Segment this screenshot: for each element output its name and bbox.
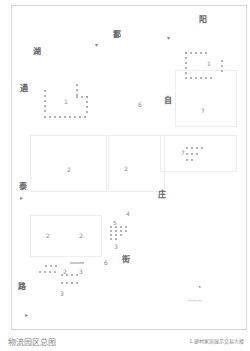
block-outline — [108, 135, 165, 192]
zone-number: 3 — [60, 290, 64, 297]
building-dots — [186, 147, 203, 149]
building-dots — [61, 282, 78, 284]
legend-note: 1.建材家居展示交易大楼 — [189, 337, 244, 344]
street-label-north-1: 鄱 — [113, 30, 121, 39]
building-dots — [76, 84, 78, 96]
block-outline — [160, 135, 237, 172]
street-label-west-4: 路 — [18, 282, 26, 291]
building-dots — [110, 230, 127, 232]
street-label-west-2: 通 — [20, 84, 28, 93]
street-label-west-3: 泰 — [19, 182, 27, 191]
street-label-west-1: 湖 — [33, 47, 41, 56]
zone-number: 1 — [207, 60, 211, 67]
zone-number: 7 — [181, 149, 185, 156]
marker-icon: ▸ — [25, 311, 28, 318]
zone-number: 1 — [64, 98, 68, 105]
marker-icon: ▾ — [167, 34, 170, 41]
building-dots — [186, 159, 193, 161]
street-label-south-1: 街 — [122, 255, 130, 264]
marker-icon: ▾ — [95, 41, 98, 48]
zone-number: 5 — [113, 219, 117, 226]
street-label-north-2: 阳 — [199, 15, 207, 24]
zone-number: 7 — [201, 107, 205, 114]
zone-number: 4 — [126, 210, 130, 217]
zone-number: 2 — [67, 166, 71, 173]
building-dots — [44, 90, 46, 112]
building-dots — [44, 116, 86, 118]
marker-icon: • — [198, 283, 202, 290]
block-outline — [30, 215, 102, 257]
building-dots — [110, 234, 122, 236]
building-dots — [186, 153, 198, 155]
street-label-east-2: 庄 — [158, 190, 166, 199]
block-outline — [30, 135, 107, 192]
building-dots — [61, 274, 78, 276]
building-dots — [185, 52, 207, 54]
zone-number: 6 — [104, 259, 108, 266]
zone-number: 3 — [114, 243, 118, 250]
zone-number: 2 — [46, 232, 50, 239]
map-title: 物流园区总图 — [8, 336, 56, 347]
building-dots — [45, 265, 57, 267]
building-dots — [110, 226, 127, 228]
building-dots — [185, 52, 187, 74]
building-dots — [185, 77, 212, 79]
zone-number: 2 — [124, 165, 128, 172]
building-bar — [70, 262, 84, 264]
building-dots — [110, 238, 117, 240]
river-symbol: ~~~ — [187, 297, 202, 305]
building-dots — [86, 96, 88, 113]
zone-number: 3 — [79, 268, 83, 275]
building-dots — [39, 271, 56, 273]
zone-number: 2 — [79, 232, 83, 239]
building-dots — [221, 60, 223, 72]
street-label-east-1: 自 — [164, 96, 172, 105]
marker-icon: ▸ — [20, 194, 23, 201]
zone-number: 6 — [138, 101, 142, 108]
